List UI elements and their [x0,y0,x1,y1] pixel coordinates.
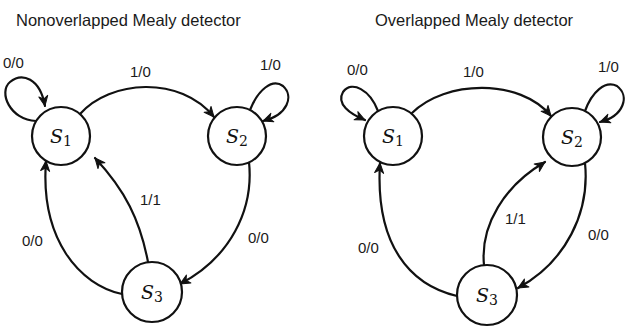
transition-label: 0/0 [248,229,269,246]
transition-edge [380,163,457,296]
transition-s1-to-s1: 0/0 [3,54,49,121]
transition-edge [518,163,586,288]
transition-edge [80,87,214,117]
state-subscript: 1 [395,133,404,149]
transition-s3-to-s1: 0/0 [22,161,122,294]
transition-edge [95,158,148,262]
transition-edge [45,161,122,294]
transition-label: 0/0 [588,226,609,243]
state-subscript: 2 [239,133,248,149]
arrowhead-icon [598,114,610,126]
arrowhead-icon [516,279,529,292]
transition-label: 1/0 [598,58,619,75]
diagram-title: Overlapped Mealy detector [375,11,574,29]
transition-s3-to-s1: 1/1 [92,155,161,262]
transition-label: 0/0 [358,239,379,256]
transition-label: 0/0 [347,61,368,78]
state-subscript: 3 [154,289,163,305]
state-s1: S1 [32,107,90,165]
mealy-detector-diagrams: Nonoverlapped Mealy detector 0/01/01/00/… [0,0,636,333]
transition-label: 0/0 [22,232,43,249]
transition-label: 1/0 [260,56,281,73]
transition-edge [5,77,45,121]
state-s1: S1 [364,107,422,165]
state-subscript: 2 [574,134,583,150]
transition-s3-to-s2: 1/1 [484,158,548,265]
diagram-nonoverlapped: Nonoverlapped Mealy detector 0/01/01/00/… [3,11,288,322]
diagram-overlapped: Overlapped Mealy detector 0/01/01/00/00/… [341,11,624,325]
state-s3: S3 [457,265,517,325]
transition-edge [412,88,551,116]
transition-s2-to-s3: 0/0 [516,163,609,292]
arrowhead-icon [534,158,547,171]
diagram-title: Nonoverlapped Mealy detector [16,11,241,29]
state-s3: S3 [122,262,182,322]
arrowhead-icon [354,112,367,124]
transition-s2-to-s3: 0/0 [178,162,269,288]
transition-s1-to-s2: 1/0 [80,63,217,120]
transition-edge [180,162,250,284]
transition-label: 0/0 [3,54,24,71]
transition-label: 1/1 [140,191,161,208]
state-subscript: 3 [489,292,498,308]
transition-label: 1/1 [505,210,526,227]
transition-label: 1/0 [463,63,484,80]
state-s2: S2 [543,108,601,166]
state-subscript: 1 [63,133,72,149]
transition-s1-to-s2: 1/0 [412,63,554,119]
transition-s3-to-s1: 0/0 [358,163,457,296]
arrowhead-icon [39,95,50,106]
transition-label: 1/0 [130,63,151,80]
state-s2: S2 [208,107,266,165]
